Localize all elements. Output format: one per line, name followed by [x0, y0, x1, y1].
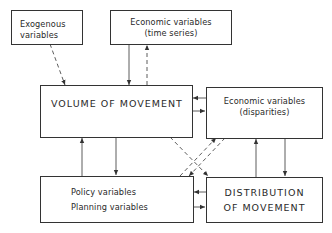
- node-label-line: (time series): [144, 28, 197, 39]
- edge-policy-to-econ-disp: [180, 138, 216, 176]
- node-label-line: variables: [20, 30, 58, 41]
- node-label-line: DISTRIBUTION: [224, 185, 304, 200]
- node-label-line: OF MOVEMENT: [223, 200, 305, 215]
- edge-volume-to-distribution: [170, 137, 208, 176]
- edge-exogenous-to-volume: [50, 44, 65, 85]
- edge-econ-disp-to-policy: [189, 138, 225, 176]
- node-label-line: Economic variables: [130, 17, 211, 28]
- node-policy-planning-variables: Policy variables Planning variables: [40, 176, 194, 223]
- node-label-line: Economic variables: [224, 96, 305, 107]
- node-economic-variables-disparities: Economic variables (disparities): [206, 87, 323, 139]
- node-label-line: Policy variables: [71, 185, 136, 200]
- node-economic-variables-time-series: Economic variables (time series): [110, 10, 232, 45]
- node-volume-of-movement: VOLUME OF MOVEMENT: [40, 85, 193, 138]
- node-exogenous-variables: Exogenous variables: [11, 10, 83, 45]
- node-label-line: VOLUME OF MOVEMENT: [51, 96, 183, 111]
- node-label-line: Planning variables: [71, 200, 148, 215]
- node-label-line: Exogenous: [20, 19, 66, 30]
- node-distribution-of-movement: DISTRIBUTION OF MOVEMENT: [206, 177, 323, 223]
- diagram-canvas: Exogenous variables Economic variables (…: [0, 0, 332, 233]
- node-label-line: (disparities): [239, 107, 289, 118]
